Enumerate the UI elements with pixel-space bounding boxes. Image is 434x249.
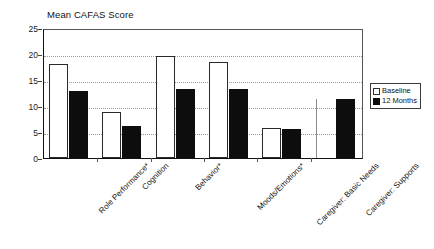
y-axis-tick-mark — [38, 55, 42, 56]
bar-group — [204, 30, 257, 158]
bar-12-months — [229, 89, 248, 158]
x-axis-category-labels: Role Performance*CognitionBehavior*Moods… — [43, 162, 363, 248]
y-axis-tick-label: 5 — [18, 129, 38, 138]
legend-entry-label: Baseline — [382, 87, 411, 95]
bar-12-months — [282, 129, 301, 158]
y-axis: 0510152025 — [16, 29, 38, 159]
chart-title: Mean CAFAS Score — [47, 9, 134, 20]
y-axis-tick-mark — [38, 81, 42, 82]
bar-12-months — [176, 89, 195, 158]
bar-baseline — [262, 128, 281, 158]
y-axis-tick-label: 20 — [18, 51, 38, 60]
bar-baseline — [209, 62, 228, 158]
bar-12-months — [122, 126, 141, 158]
chart-legend: Baseline12 Months — [370, 83, 421, 109]
filled-square-swatch — [373, 98, 380, 105]
bar-baseline — [102, 112, 121, 158]
y-axis-tick-mark — [38, 29, 42, 30]
bar-group — [311, 30, 364, 158]
legend-entry: Baseline — [373, 86, 417, 96]
bar-group — [151, 30, 204, 158]
bar-baseline — [156, 56, 175, 158]
bar-baseline — [49, 64, 68, 158]
bar-group — [44, 30, 97, 158]
bar-12-months — [69, 91, 88, 158]
bar-12-months — [336, 99, 355, 158]
y-axis-tick-label: 10 — [18, 103, 38, 112]
x-axis-category-label: Moods/Emotions* — [256, 162, 306, 212]
open-square-swatch — [373, 88, 380, 95]
y-axis-tick-mark — [38, 107, 42, 108]
y-axis-tick-label: 0 — [18, 155, 38, 164]
bar-baseline — [316, 99, 317, 158]
y-axis-tick-mark — [38, 133, 42, 134]
legend-entry-label: 12 Months — [382, 97, 417, 105]
y-axis-tick-label: 25 — [18, 25, 38, 34]
y-axis-tick-mark — [38, 159, 42, 160]
bar-group — [97, 30, 150, 158]
y-axis-tick-label: 15 — [18, 77, 38, 86]
x-axis-category-label: Behavior* — [194, 162, 224, 192]
legend-entry: 12 Months — [373, 96, 417, 106]
mean-cafas-score-bar-chart: Mean CAFAS Score 0510152025 Role Perform… — [0, 0, 434, 249]
bar-group — [257, 30, 310, 158]
plot-area — [43, 29, 363, 159]
